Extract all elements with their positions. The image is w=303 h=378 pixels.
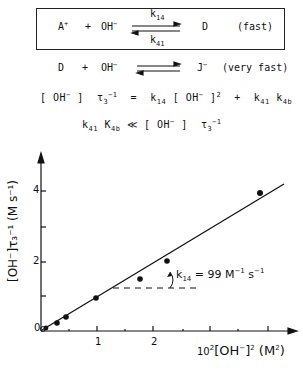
r1-equilibrium-arrows <box>132 22 180 35</box>
x-tick-label-1: 1 <box>95 336 101 347</box>
chart-svg <box>0 0 303 378</box>
slope-annotation: k14 = 99 M−1 s−1 <box>176 268 264 281</box>
y-axis-label: [OH⁻]τ₃⁻¹ (M s⁻¹) <box>6 166 20 296</box>
r2-equilibrium-arrows <box>137 62 180 75</box>
x-axis-label: 102[OH−]2 (M2) <box>197 343 285 358</box>
origin-label: 0 <box>34 322 40 333</box>
x-axis <box>41 326 297 334</box>
y-axis <box>38 153 46 331</box>
fit-line <box>42 184 284 330</box>
y-tick-label-2: 2 <box>33 255 39 266</box>
y-tick-label-4: 4 <box>33 184 39 195</box>
x-tick-label-2: 2 <box>151 336 157 347</box>
